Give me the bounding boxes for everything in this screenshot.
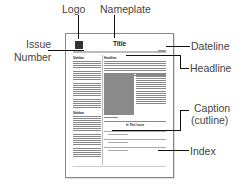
photo-placeholder bbox=[104, 73, 134, 115]
sidebar-heading-2: Sidebar bbox=[73, 111, 101, 115]
footer-rule bbox=[73, 166, 166, 167]
caption-label-2: (cutline) bbox=[191, 114, 228, 126]
nameplate-title: Title bbox=[66, 40, 173, 47]
main-column: Headline In This Issue bbox=[104, 55, 166, 77]
column-divider bbox=[102, 55, 103, 165]
issue-number-label-2: Number bbox=[14, 51, 51, 63]
headline-label: Headline bbox=[190, 62, 231, 74]
index-title: In This Issue bbox=[104, 123, 166, 127]
nameplate-label: Nameplate bbox=[100, 3, 151, 15]
caption-label-1: Caption bbox=[194, 102, 230, 114]
headline-leader-v bbox=[180, 55, 181, 68]
caption-line bbox=[104, 117, 118, 118]
dateline-leader bbox=[166, 46, 190, 47]
index-box: In This Issue bbox=[104, 121, 166, 156]
sidebar-heading: Sidebar bbox=[73, 56, 101, 60]
caption-leader-h2 bbox=[180, 110, 189, 111]
headline-leader-h1 bbox=[126, 55, 180, 56]
issue-number-label-1: Issue bbox=[26, 38, 51, 50]
article-text bbox=[136, 73, 166, 105]
headline-leader-h2 bbox=[180, 68, 189, 69]
logo-leader bbox=[78, 15, 79, 39]
caption-leader-h1 bbox=[112, 130, 180, 131]
nameplate-rule bbox=[73, 51, 166, 53]
index-label: Index bbox=[190, 145, 216, 157]
caption-leader-v bbox=[180, 110, 181, 131]
headline-text: Headline bbox=[104, 56, 166, 60]
dateline-label: Dateline bbox=[191, 40, 230, 52]
dateline-mark bbox=[158, 50, 166, 52]
nameplate-leader bbox=[114, 15, 115, 38]
sidebar-column: Sidebar Sidebar bbox=[73, 55, 101, 158]
index-leader bbox=[158, 150, 189, 151]
issue-number-leader bbox=[48, 50, 84, 51]
logo-label: Logo bbox=[62, 3, 85, 15]
